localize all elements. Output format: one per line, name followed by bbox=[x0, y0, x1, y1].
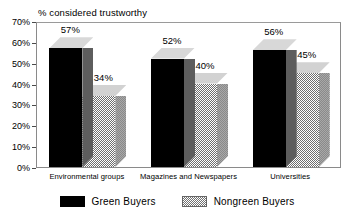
bar-value-label: 52% bbox=[150, 36, 194, 46]
x-axis-category-label-text: Environmental groups bbox=[49, 172, 124, 181]
y-axis-tick-label: 30% bbox=[12, 101, 30, 110]
y-axis-tick-mark bbox=[32, 168, 36, 169]
y-axis-tick-label: 10% bbox=[12, 143, 30, 152]
y-axis-tick-label: 60% bbox=[12, 38, 30, 47]
bar-green-buyers[interactable] bbox=[151, 59, 184, 167]
y-axis-tick-label: 20% bbox=[12, 122, 30, 131]
bar-green-buyers[interactable] bbox=[49, 48, 82, 167]
x-axis-category-label-text: Universities bbox=[270, 172, 310, 181]
bar-side-face bbox=[286, 50, 297, 167]
legend-entry[interactable]: Green Buyers bbox=[60, 196, 156, 207]
nongreen-swatch bbox=[182, 196, 207, 207]
bar-side-face bbox=[217, 84, 228, 167]
bar-front-face bbox=[49, 48, 82, 167]
bar-side-face bbox=[319, 73, 330, 167]
green-swatch bbox=[60, 196, 85, 207]
bar-value-label: 56% bbox=[252, 27, 296, 37]
legend-label: Nongreen Buyers bbox=[214, 196, 295, 207]
bar-value-label: 57% bbox=[48, 25, 92, 35]
legend-entry[interactable]: Nongreen Buyers bbox=[182, 196, 295, 207]
chart-legend: Green BuyersNongreen Buyers bbox=[0, 196, 354, 207]
bar-side-face bbox=[115, 96, 126, 167]
bar-side-face bbox=[184, 59, 195, 167]
bar-chart: % considered trustworthy 0%10%20%30%40%5… bbox=[0, 0, 354, 220]
bar-top-face bbox=[49, 37, 93, 48]
y-axis-tick-label: 70% bbox=[12, 18, 30, 27]
bar-green-buyers[interactable] bbox=[253, 50, 286, 167]
bar-front-face bbox=[253, 50, 286, 167]
y-axis-tick-label: 0% bbox=[17, 164, 30, 173]
bar-top-face bbox=[253, 39, 297, 50]
y-axis-tick-label: 50% bbox=[12, 59, 30, 68]
chart-title: % considered trustworthy bbox=[38, 7, 147, 18]
bar-front-face bbox=[151, 59, 184, 167]
x-axis-category-label-text: Magazines and Newspapers bbox=[140, 172, 237, 181]
bar-side-face bbox=[82, 48, 93, 167]
legend-label: Green Buyers bbox=[92, 196, 156, 207]
y-axis-tick-label: 40% bbox=[12, 80, 30, 89]
bar-top-face bbox=[151, 48, 195, 59]
